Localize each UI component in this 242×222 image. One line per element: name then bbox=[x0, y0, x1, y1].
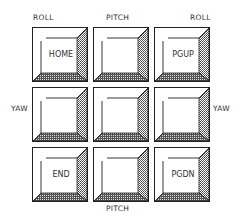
key-yaw-left[interactable] bbox=[32, 87, 88, 142]
yaw-label-right: YAW bbox=[213, 104, 230, 113]
key-pitch-down[interactable] bbox=[93, 147, 149, 202]
key-label bbox=[168, 102, 198, 126]
key-yaw-right[interactable] bbox=[154, 87, 210, 142]
key-label bbox=[107, 42, 137, 66]
key-label: PGUP bbox=[168, 42, 198, 66]
key-label bbox=[46, 102, 76, 126]
key-label: PGDN bbox=[168, 162, 198, 186]
key-end[interactable]: END bbox=[32, 147, 88, 202]
key-label: END bbox=[46, 162, 76, 186]
key-pgdn[interactable]: PGDN bbox=[154, 147, 210, 202]
roll-label-top-right: ROLL bbox=[190, 13, 211, 22]
key-pitch-up[interactable] bbox=[93, 27, 149, 82]
key-label bbox=[107, 102, 137, 126]
yaw-label-left: YAW bbox=[11, 104, 28, 113]
key-home[interactable]: HOME bbox=[32, 27, 88, 82]
pitch-label-bottom: PITCH bbox=[106, 204, 129, 213]
roll-label-top-left: ROLL bbox=[33, 13, 54, 22]
key-label: HOME bbox=[46, 42, 76, 66]
key-label bbox=[107, 162, 137, 186]
key-pgup[interactable]: PGUP bbox=[154, 27, 210, 82]
key-center[interactable] bbox=[93, 87, 149, 142]
pitch-label-top: PITCH bbox=[106, 13, 129, 22]
